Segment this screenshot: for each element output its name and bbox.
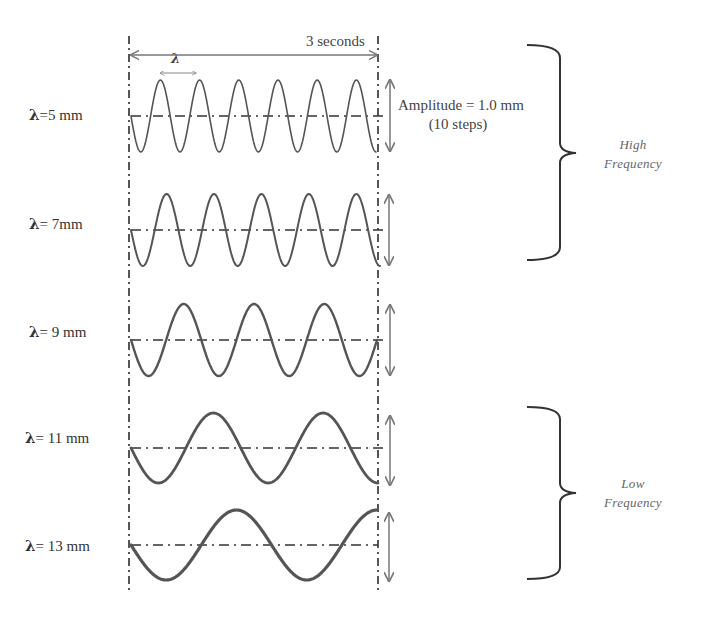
sine-waves	[131, 80, 380, 580]
time-span-label: 3 seconds	[306, 33, 365, 50]
group-label-line1: High	[588, 135, 678, 154]
group-label-line2: Frequency	[588, 493, 678, 512]
lambda-symbol: λ	[29, 323, 40, 341]
row-label-lambda-9: λ= 9 mm	[29, 323, 86, 341]
group-label-line1: Low	[588, 474, 678, 493]
row-label-lambda-5: λ=5 mm	[29, 106, 83, 124]
lambda-symbol: λ	[25, 429, 36, 447]
amplitude-label: Amplitude = 1.0 mm (10 steps)	[398, 96, 518, 134]
low-frequency-label: Low Frequency	[588, 474, 678, 512]
sine-wave-lambda-9	[131, 304, 377, 376]
wavelength-value: = 13 mm	[36, 538, 90, 554]
amplitude-steps: (10 steps)	[429, 116, 488, 132]
amplitude-arrows	[389, 80, 390, 581]
lambda-symbol: λ	[29, 106, 40, 124]
row-label-lambda-11: λ= 11 mm	[25, 429, 89, 447]
wavelength-value: =5 mm	[40, 107, 83, 123]
wavelength-value: = 7mm	[40, 216, 83, 232]
lambda-symbol: λ	[29, 215, 40, 233]
high-frequency-brace	[527, 45, 576, 260]
row-label-lambda-13: λ= 13 mm	[25, 537, 90, 555]
group-label-line2: Frequency	[588, 154, 678, 173]
wave-diagram	[0, 0, 704, 617]
wavelength-value: = 11 mm	[36, 430, 90, 446]
sine-wave-lambda-5	[131, 80, 376, 152]
wavelength-value: = 9 mm	[40, 324, 87, 340]
high-frequency-label: High Frequency	[588, 135, 678, 173]
amplitude-value: Amplitude = 1.0 mm	[398, 96, 518, 115]
wavelength-symbol: λ	[171, 51, 180, 66]
lambda-symbol: λ	[25, 537, 36, 555]
low-frequency-brace	[527, 407, 576, 579]
row-label-lambda-7: λ= 7mm	[29, 215, 83, 233]
sine-wave-lambda-13	[131, 510, 377, 580]
